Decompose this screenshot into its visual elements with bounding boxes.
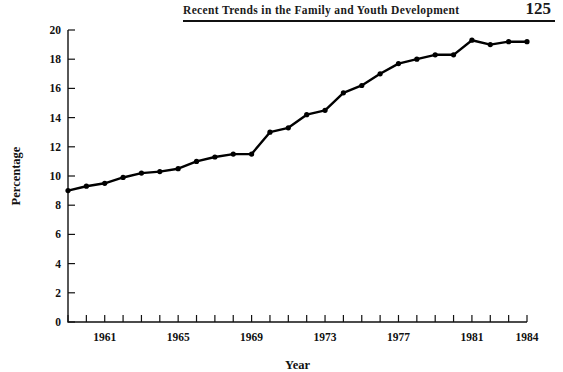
y-tick-label: 2 [55, 287, 61, 299]
data-point-marker [286, 125, 291, 130]
data-point-marker [139, 170, 144, 175]
x-tick-label: 1973 [314, 331, 337, 343]
data-point-marker [341, 90, 346, 95]
data-point-marker [267, 130, 272, 135]
data-point-marker [469, 38, 474, 43]
y-tick-label: 12 [50, 141, 62, 153]
y-tick-label: 20 [50, 24, 62, 36]
data-series-markers [65, 38, 529, 194]
data-point-marker [451, 52, 456, 57]
data-point-marker [84, 184, 89, 189]
data-point-marker [102, 181, 107, 186]
y-tick-label: 18 [50, 53, 62, 65]
data-point-marker [231, 152, 236, 157]
data-point-marker [433, 52, 438, 57]
data-point-marker [176, 166, 181, 171]
data-point-marker [120, 175, 125, 180]
data-point-marker [506, 39, 511, 44]
line-chart-figure: 02468101214161820 1961196519691973197719… [0, 24, 563, 372]
x-axis-title: Year [285, 358, 310, 372]
data-point-marker [194, 159, 199, 164]
x-tick-label: 1981 [460, 331, 483, 343]
data-series-line [68, 40, 527, 190]
y-axis-tick-labels: 02468101214161820 [50, 24, 62, 328]
data-point-marker [359, 83, 364, 88]
y-axis-ticks [68, 30, 75, 322]
y-tick-label: 8 [55, 199, 61, 211]
page-number: 125 [526, 0, 552, 19]
data-point-marker [304, 112, 309, 117]
data-point-marker [414, 57, 419, 62]
axis-frame [68, 30, 527, 322]
x-tick-label: 1984 [516, 331, 539, 343]
y-tick-label: 16 [50, 82, 62, 94]
running-head-title: Recent Trends in the Family and Youth De… [183, 4, 459, 16]
chart-canvas: 02468101214161820 1961196519691973197719… [0, 24, 563, 372]
header-divider-rule [183, 20, 555, 22]
data-point-marker [249, 152, 254, 157]
data-point-marker [157, 169, 162, 174]
data-point-marker [212, 154, 217, 159]
y-tick-label: 4 [55, 258, 61, 270]
x-tick-label: 1961 [93, 331, 116, 343]
x-axis-ticks [68, 315, 527, 322]
y-tick-label: 6 [55, 228, 61, 240]
data-point-marker [396, 61, 401, 66]
x-axis-tick-labels: 1961196519691973197719811984 [93, 331, 539, 343]
data-point-marker [322, 108, 327, 113]
y-axis-title: Percentage [9, 146, 23, 205]
data-point-marker [65, 188, 70, 193]
data-point-marker [524, 39, 529, 44]
y-tick-label: 14 [50, 112, 62, 124]
x-tick-label: 1969 [240, 331, 263, 343]
x-tick-label: 1965 [167, 331, 190, 343]
y-tick-label: 10 [50, 170, 62, 182]
data-point-marker [488, 42, 493, 47]
y-tick-label: 0 [55, 316, 61, 328]
data-point-marker [378, 71, 383, 76]
x-tick-label: 1977 [387, 331, 410, 343]
